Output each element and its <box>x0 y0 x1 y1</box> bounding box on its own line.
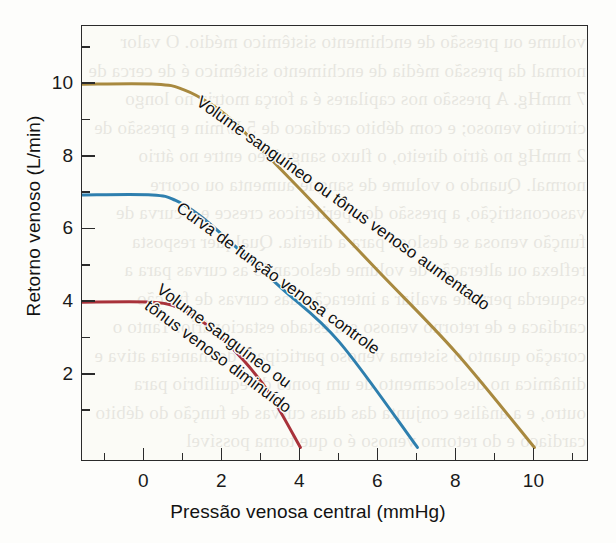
y-axis-minor-tick <box>82 264 90 266</box>
venous-return-curves <box>82 26 586 459</box>
y-axis-minor-tick <box>82 337 90 339</box>
x-tick-label: 0 <box>138 470 149 492</box>
x-axis-major-tick <box>533 448 535 461</box>
y-axis-major-tick <box>82 228 95 230</box>
x-axis-minor-tick <box>104 453 106 461</box>
x-axis-title: Pressão venosa central (mmHg) <box>0 501 616 523</box>
x-axis-major-tick <box>377 448 379 461</box>
x-tick-label: 8 <box>450 470 461 492</box>
x-axis-minor-tick <box>338 453 340 461</box>
x-tick-label: 6 <box>372 470 383 492</box>
y-axis-major-tick <box>82 373 95 375</box>
y-axis-minor-tick <box>82 191 90 193</box>
x-tick-label: 10 <box>523 470 544 492</box>
x-axis-minor-tick <box>494 453 496 461</box>
x-axis-major-tick <box>299 448 301 461</box>
plot-area <box>81 25 588 461</box>
curve-0 <box>82 84 534 448</box>
y-axis-major-tick <box>82 300 95 302</box>
figure-container: volume ou pressão de enchimento sistêmic… <box>0 0 616 543</box>
y-axis-minor-tick <box>82 119 90 121</box>
x-axis-major-tick <box>221 448 223 461</box>
y-axis-minor-tick <box>82 46 90 48</box>
x-axis-minor-tick <box>572 453 574 461</box>
y-axis-minor-tick <box>82 409 90 411</box>
x-axis-minor-tick <box>416 453 418 461</box>
x-axis-major-tick <box>143 448 145 461</box>
x-tick-label: 4 <box>294 470 305 492</box>
x-axis-major-tick <box>455 448 457 461</box>
y-axis-major-tick <box>82 82 95 84</box>
curve-1 <box>82 195 417 448</box>
y-axis-major-tick <box>82 155 95 157</box>
y-axis-title: Retorno venoso (L/min) <box>23 16 45 416</box>
x-axis-minor-tick <box>260 453 262 461</box>
plot-inner <box>82 26 587 460</box>
x-tick-label: 2 <box>216 470 227 492</box>
x-axis-minor-tick <box>182 453 184 461</box>
